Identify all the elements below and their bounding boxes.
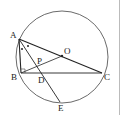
label-d: D — [38, 76, 45, 85]
frame-edge — [119, 0, 120, 115]
label-c: C — [104, 73, 110, 82]
diagram-canvas — [0, 0, 122, 115]
label-a: A — [10, 31, 17, 40]
angle-dot-2 — [27, 45, 29, 47]
label-o: O — [64, 47, 71, 56]
angle-dot-1 — [21, 48, 23, 50]
label-p: P — [37, 57, 42, 66]
label-b: B — [11, 73, 17, 82]
geometry-diagram: A B C O P D E — [0, 0, 122, 115]
segment-ab — [19, 39, 21, 73]
label-e: E — [58, 104, 64, 113]
center-point-o — [61, 55, 63, 57]
segment-ac — [19, 39, 102, 73]
